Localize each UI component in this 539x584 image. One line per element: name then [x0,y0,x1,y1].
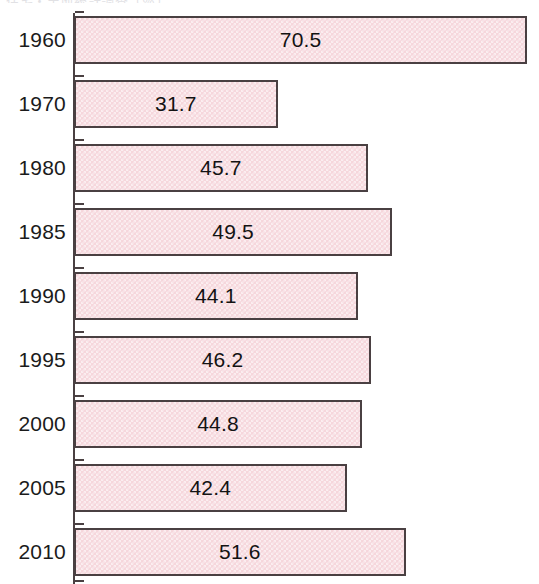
axis-tick [75,203,84,205]
bar-row: 196070.5 [0,16,539,64]
bar[interactable] [74,272,358,320]
bar[interactable] [74,336,371,384]
horizontal-bar-chart: 196070.5197031.7198045.7198549.5199044.1… [0,0,539,584]
axis-tick-end [75,580,84,582]
bar-row: 197031.7 [0,80,539,128]
bar[interactable] [74,16,527,64]
year-axis-label: 1990 [0,272,66,320]
bar[interactable] [74,208,392,256]
bar[interactable] [74,144,368,192]
bar-row: 200044.8 [0,400,539,448]
axis-tick [75,75,84,77]
bar-row: 200542.4 [0,464,539,512]
axis-tick [75,331,84,333]
year-axis-label: 2010 [0,528,66,576]
bar-row: 198549.5 [0,208,539,256]
bar-row: 199044.1 [0,272,539,320]
year-axis-label: 1995 [0,336,66,384]
axis-tick [75,523,84,525]
axis-tick [75,395,84,397]
axis-tick [75,11,84,13]
axis-tick [75,459,84,461]
bar[interactable] [74,80,278,128]
year-axis-label: 1980 [0,144,66,192]
axis-tick [75,267,84,269]
bar-row: 198045.7 [0,144,539,192]
year-axis-label: 2000 [0,400,66,448]
year-axis-label: 1985 [0,208,66,256]
bar[interactable] [74,400,362,448]
bar-row: 201051.6 [0,528,539,576]
year-axis-label: 1960 [0,16,66,64]
axis-tick [75,139,84,141]
bar[interactable] [74,464,347,512]
bar[interactable] [74,528,406,576]
year-axis-label: 2005 [0,464,66,512]
bar-row: 199546.2 [0,336,539,384]
year-axis-label: 1970 [0,80,66,128]
